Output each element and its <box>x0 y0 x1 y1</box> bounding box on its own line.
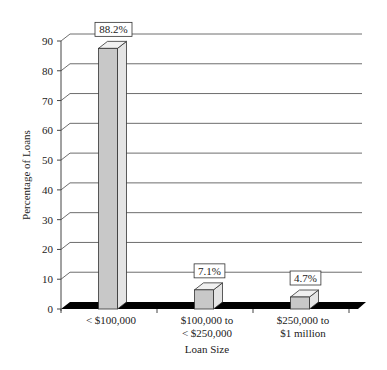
bar-2: 7.1% <box>194 264 225 309</box>
bars: 88.2%7.1%4.7% <box>95 22 321 309</box>
x-category-label: $250,000 to <box>277 314 330 326</box>
y-tick-label: 50 <box>42 154 54 166</box>
y-tick-label: 40 <box>42 184 54 196</box>
data-label: 4.7% <box>294 272 317 284</box>
x-axis: < $100,000$100,000 to< $250,000$250,000 … <box>61 309 349 339</box>
data-label: 88.2% <box>99 23 127 35</box>
bar-3: 4.7% <box>290 271 321 309</box>
x-category-label: < $100,000 <box>86 314 137 326</box>
y-tick-label: 60 <box>42 124 54 136</box>
data-label: 7.1% <box>198 265 221 277</box>
x-axis-title: Loan Size <box>185 343 229 355</box>
bar-1: 88.2% <box>95 22 132 309</box>
y-tick-label: 80 <box>42 65 54 77</box>
y-tick-label: 70 <box>42 95 54 107</box>
x-category-label: $100,000 to <box>181 314 234 326</box>
x-category-label: $1 million <box>280 327 326 339</box>
x-category-label: < $250,000 <box>182 327 233 339</box>
y-tick-label: 20 <box>42 243 54 255</box>
y-tick-label: 10 <box>42 273 54 285</box>
y-axis: 0102030405060708090 <box>42 35 61 315</box>
y-tick-label: 30 <box>42 214 54 226</box>
y-axis-title: Percentage of Loans <box>20 130 32 220</box>
bar-chart: 0102030405060708090 88.2%7.1%4.7% < $100… <box>0 0 387 370</box>
y-tick-label: 0 <box>48 303 54 315</box>
y-tick-label: 90 <box>42 35 54 47</box>
